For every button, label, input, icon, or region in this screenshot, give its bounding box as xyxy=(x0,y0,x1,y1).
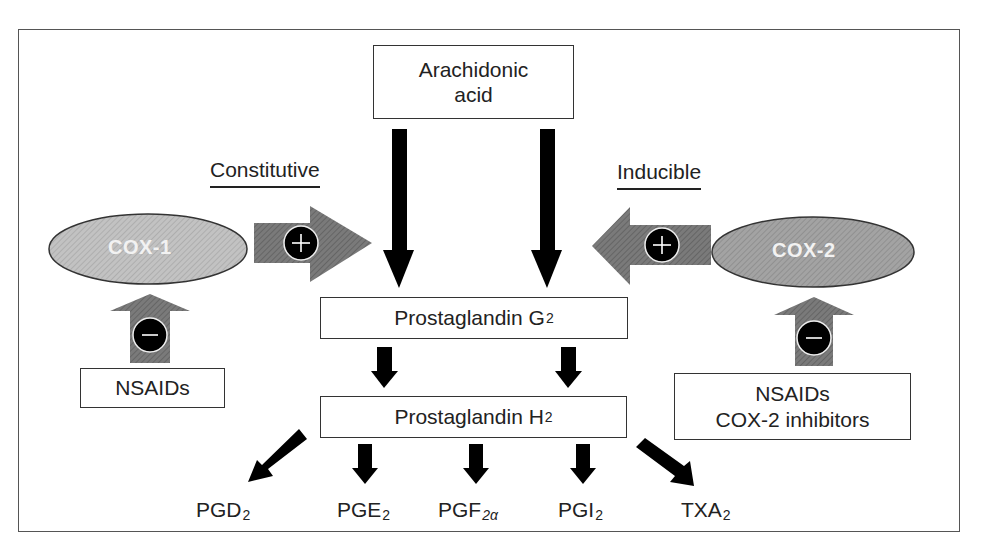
inducible-text: Inducible xyxy=(617,160,701,183)
cox2-label: COX-2 xyxy=(772,239,836,262)
minus-badge-icon-right xyxy=(797,321,831,355)
product-pgd2: PGD2 xyxy=(196,498,250,523)
product-pgf2a: PGF2α xyxy=(438,498,498,523)
node-prostaglandin-g2: Prostaglandin G2 xyxy=(320,297,628,339)
arrow-to-pgi2 xyxy=(570,444,596,484)
label-constitutive: Constitutive xyxy=(210,158,320,188)
arrow-pgg2-to-pgh2-left xyxy=(371,347,398,388)
nsaids-right-line2: COX-2 inhibitors xyxy=(715,407,869,432)
txa2-sub: 2 xyxy=(723,507,731,523)
node-nsaids-cox2-inhibitors: NSAIDs COX-2 inhibitors xyxy=(674,373,911,440)
pgf2a-base: PGF xyxy=(438,498,481,521)
product-txa2: TXA2 xyxy=(681,498,731,523)
arrow-to-pgd2 xyxy=(248,429,307,482)
nsaids-right-line1: NSAIDs xyxy=(755,381,830,406)
txa2-base: TXA xyxy=(681,498,722,521)
node-arachidonic-acid: Arachidonic acid xyxy=(373,45,574,119)
pgd2-base: PGD xyxy=(196,498,242,521)
arrow-aa-to-pgg2-left xyxy=(383,129,414,288)
product-pgi2: PGI2 xyxy=(558,498,603,523)
pgi2-sub: 2 xyxy=(595,507,603,523)
cox1-label: COX-1 xyxy=(108,236,172,259)
pgd2-sub: 2 xyxy=(243,507,251,523)
minus-badge-icon-left xyxy=(133,318,167,352)
arrow-to-txa2 xyxy=(636,438,694,486)
arachidonic-line2: acid xyxy=(454,82,493,107)
pgf2a-sub: 2α xyxy=(482,507,498,523)
plus-badge-icon-right xyxy=(645,228,679,262)
plus-badge-icon-left xyxy=(284,226,318,260)
pgi2-base: PGI xyxy=(558,498,594,521)
arrow-to-pgf2a xyxy=(463,444,489,484)
nsaids-text: NSAIDs xyxy=(115,375,190,400)
pgg2-text: Prostaglandin G xyxy=(394,305,545,330)
pge2-base: PGE xyxy=(337,498,381,521)
pgg2-sub: 2 xyxy=(546,310,554,327)
node-nsaids: NSAIDs xyxy=(80,368,225,408)
arachidonic-line1: Arachidonic xyxy=(419,57,529,82)
constitutive-text: Constitutive xyxy=(210,158,320,181)
pge2-sub: 2 xyxy=(382,507,390,523)
product-pge2: PGE2 xyxy=(337,498,390,523)
pgh2-sub: 2 xyxy=(545,409,553,426)
arrow-aa-to-pgg2-right xyxy=(531,129,562,288)
label-inducible: Inducible xyxy=(617,160,701,190)
arrow-pgg2-to-pgh2-right xyxy=(555,347,582,388)
arrow-to-pge2 xyxy=(352,444,378,484)
pgh2-text: Prostaglandin H xyxy=(394,404,543,429)
node-prostaglandin-h2: Prostaglandin H2 xyxy=(320,396,627,438)
